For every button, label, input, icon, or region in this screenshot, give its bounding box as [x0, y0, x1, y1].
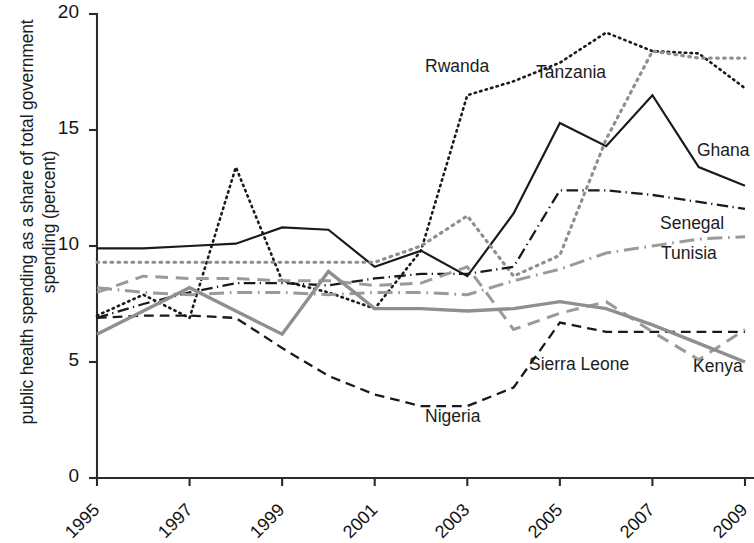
series-line-tanzania: [97, 51, 745, 276]
series-label-ghana: Ghana: [697, 140, 750, 161]
series-label-senegal: Senegal: [660, 213, 724, 234]
y-axis-tick-label: 5: [33, 349, 79, 371]
line-chart-plot: [0, 0, 754, 543]
series-line-senegal: [97, 190, 745, 318]
series-label-rwanda: Rwanda: [425, 56, 489, 77]
series-label-kenya: Kenya: [693, 356, 743, 377]
series-label-tunisia: Tunisia: [661, 243, 717, 264]
y-axis-tick-label: 15: [33, 117, 79, 139]
chart-container: public health spending as a share of tot…: [0, 0, 754, 543]
y-axis-tick-label: 10: [33, 233, 79, 255]
series-label-sierra-leone: Sierra Leone: [529, 354, 629, 375]
series-line-rwanda: [97, 33, 745, 318]
series-label-tanzania: Tanzania: [536, 62, 606, 83]
series-label-nigeria: Nigeria: [425, 406, 480, 427]
series-line-sierra-leone: [97, 267, 745, 360]
y-axis-tick-label: 0: [33, 465, 79, 487]
y-axis-tick-label: 20: [33, 1, 79, 23]
series-line-ghana: [97, 95, 745, 276]
